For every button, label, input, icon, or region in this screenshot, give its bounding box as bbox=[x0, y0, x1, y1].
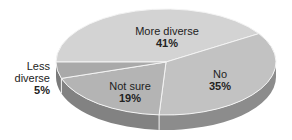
label-less-diverse: Lessdiverse5% bbox=[4, 60, 50, 96]
label-not-sure: Not sure19% bbox=[100, 80, 160, 104]
label-more-diverse: More diverse41% bbox=[122, 25, 212, 49]
label-no: No35% bbox=[195, 68, 245, 92]
